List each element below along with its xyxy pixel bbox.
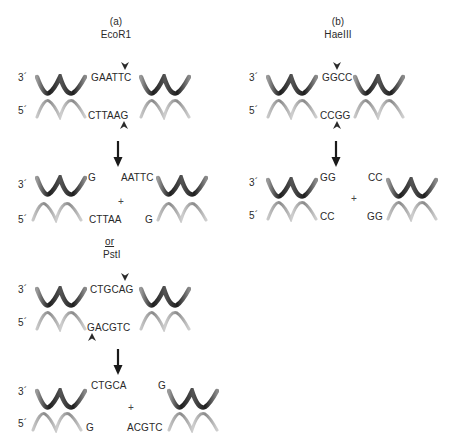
pst1-enzyme-title: PstI — [103, 249, 121, 260]
dna-bottom-strand-icon — [266, 200, 318, 222]
dna-bottom-strand-icon — [35, 98, 87, 120]
dna-top-strand-icon — [35, 74, 87, 96]
dna-bottom-strand-icon — [266, 98, 318, 120]
panel-b-enzyme-title: HaeIII — [298, 29, 378, 41]
five-prime-label: 5´ — [249, 210, 258, 221]
dna-top-strand-icon — [35, 388, 87, 410]
haeiii-bottom-sequence: CCGG — [320, 110, 350, 121]
panel-a-label: (a) — [76, 16, 156, 28]
five-prime-label: 5´ — [18, 105, 27, 116]
fragment-right-bottom: ACGTC — [127, 422, 163, 433]
dna-top-strand-icon — [266, 177, 318, 199]
dna-bottom-strand-icon — [31, 411, 83, 433]
plus-sign: + — [118, 196, 124, 207]
cut-site-down-icon — [121, 273, 129, 281]
dna-top-strand-icon — [139, 74, 191, 96]
dna-top-strand-icon — [156, 175, 208, 197]
dna-bottom-strand-icon — [139, 98, 191, 120]
cut-site-down-icon — [333, 62, 341, 70]
fragment-right-top: CC — [368, 172, 383, 183]
pst1-bottom-sequence: GACGTC — [87, 322, 130, 333]
ecor1-bottom-sequence: CTTAAG — [88, 110, 128, 121]
three-prime-label: 3´ — [18, 284, 27, 295]
dna-top-strand-icon — [353, 74, 405, 96]
fragment-left-bottom: CC — [320, 211, 335, 222]
dna-top-strand-icon — [167, 388, 219, 410]
three-prime-label: 3´ — [18, 386, 27, 397]
cut-site-up-icon — [333, 121, 341, 129]
dna-bottom-strand-icon — [139, 310, 191, 332]
dna-bottom-strand-icon — [386, 200, 438, 222]
dna-bottom-strand-icon — [35, 310, 87, 332]
five-prime-label: 5´ — [18, 317, 27, 328]
dna-bottom-strand-icon — [156, 201, 208, 223]
fragment-left-top: GG — [320, 172, 336, 183]
panel-b-label: (b) — [298, 16, 378, 28]
fragment-right-bottom: G — [145, 214, 153, 225]
dna-bottom-strand-icon — [31, 201, 83, 223]
ecor1-top-sequence: GAATTC — [91, 72, 131, 83]
reaction-arrow-icon — [113, 141, 123, 167]
dna-top-strand-icon — [386, 177, 438, 199]
fragment-right-top: AATTC — [121, 172, 154, 183]
dna-bottom-strand-icon — [353, 98, 405, 120]
five-prime-label: 5´ — [18, 214, 27, 225]
dna-top-strand-icon — [35, 286, 87, 308]
fragment-left-bottom: CTTAA — [89, 214, 122, 225]
reaction-arrow-icon — [331, 141, 341, 167]
haeiii-top-sequence: GGCC — [322, 72, 352, 83]
three-prime-label: 3´ — [249, 72, 258, 83]
reaction-arrow-icon — [113, 349, 123, 375]
cut-site-down-icon — [121, 62, 129, 70]
five-prime-label: 5´ — [18, 418, 27, 429]
five-prime-label: 5´ — [249, 105, 258, 116]
fragment-left-bottom: G — [86, 422, 94, 433]
dna-top-strand-icon — [139, 286, 191, 308]
three-prime-label: 3´ — [18, 179, 27, 190]
dna-top-strand-icon — [35, 175, 87, 197]
panel-a-enzyme-title: EcoR1 — [76, 29, 156, 41]
plus-sign: + — [128, 402, 134, 413]
pst1-top-sequence: CTGCAG — [90, 284, 133, 295]
three-prime-label: 3´ — [18, 72, 27, 83]
fragment-right-bottom: GG — [367, 211, 383, 222]
cut-site-up-icon — [88, 333, 96, 341]
three-prime-label: 3´ — [249, 177, 258, 188]
or-label: or — [105, 236, 114, 247]
cut-site-up-icon — [120, 121, 128, 129]
dna-bottom-strand-icon — [167, 411, 219, 433]
fragment-right-top: G — [158, 380, 166, 391]
plus-sign: + — [351, 193, 357, 204]
dna-top-strand-icon — [266, 74, 318, 96]
fragment-left-top: CTGCA — [91, 380, 127, 391]
fragment-left-top: G — [88, 172, 96, 183]
